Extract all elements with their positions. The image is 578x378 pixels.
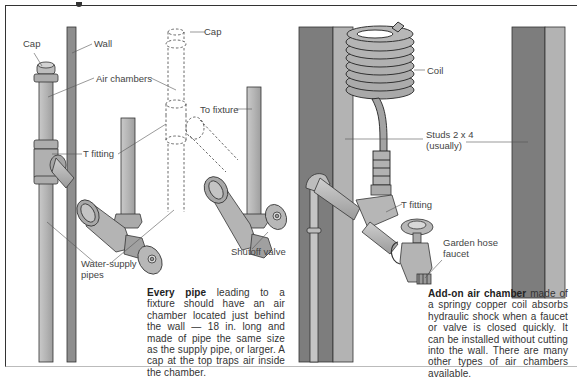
label-cap-left: Cap [23, 38, 40, 49]
wall [67, 27, 76, 362]
caption-right: Add-on air chamber made of a springy cop… [428, 288, 568, 378]
label-t-fitting-right: T fitting [401, 199, 432, 210]
label-t-fitting-left: T fitting [83, 148, 114, 159]
caption-right-text: made of a springy copper coil absorbs hy… [428, 288, 568, 378]
label-air-chambers: Air chambers [96, 73, 152, 84]
label-water-supply-line2: pipes [81, 269, 104, 280]
label-wall: Wall [94, 38, 112, 49]
label-studs-line2: (usually) [426, 140, 462, 151]
label-cap-dashed: Cap [204, 26, 221, 37]
dashed-air-chamber [166, 29, 238, 212]
label-garden-hose-faucet: Garden hose faucet [443, 237, 498, 259]
label-studs: Studs 2 x 4 (usually) [426, 129, 474, 151]
label-coil: Coil [427, 65, 443, 76]
label-garden-hose-line2: faucet [443, 248, 469, 259]
label-garden-hose-line1: Garden hose [443, 237, 498, 248]
leader-lines-right [345, 70, 528, 278]
caption-left-bold: Every pipe [147, 287, 206, 298]
copper-coil [346, 22, 414, 185]
label-water-supply-line1: Water-supply [81, 258, 137, 269]
stud-right [512, 27, 565, 298]
label-shutoff-valve: Shutoff valve [231, 246, 286, 257]
caption-left: Every pipe leading to a fixture should h… [147, 287, 285, 378]
caption-right-bold: Add-on air chamber [428, 288, 526, 299]
label-water-supply-pipes: Water-supply pipes [81, 258, 137, 280]
supply-pipe-middle [72, 118, 167, 278]
label-to-fixture: To fixture [200, 104, 239, 115]
label-studs-line1: Studs 2 x 4 [426, 129, 474, 140]
caption-left-text: leading to a fixture should have an air … [147, 287, 285, 378]
